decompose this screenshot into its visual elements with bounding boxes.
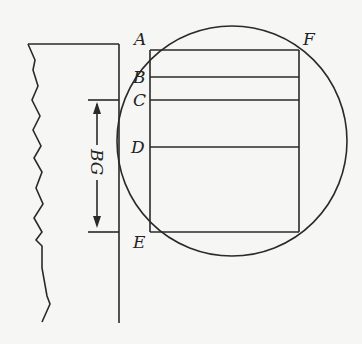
label-C: C bbox=[133, 90, 146, 110]
label-F: F bbox=[302, 29, 316, 49]
label-A: A bbox=[132, 29, 146, 49]
arrow-down-icon bbox=[93, 216, 101, 228]
label-BG: BG bbox=[87, 148, 107, 175]
label-D: D bbox=[130, 137, 145, 157]
diagram-canvas: A F B C D E BG bbox=[0, 0, 362, 344]
arrow-up-icon bbox=[93, 102, 101, 114]
label-B: B bbox=[132, 67, 146, 87]
circle bbox=[117, 26, 347, 256]
label-E: E bbox=[132, 232, 146, 252]
jagged-wall-edge bbox=[28, 44, 50, 322]
